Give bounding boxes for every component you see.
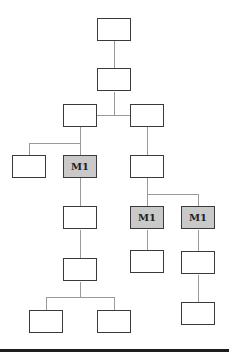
connector-n3-n6	[80, 127, 81, 155]
tree-node	[130, 155, 164, 178]
tree-node	[97, 68, 131, 91]
connector-n1-n2	[114, 41, 115, 68]
connector-n15-up	[46, 297, 47, 310]
tree-node	[181, 302, 215, 325]
bottom-rule	[0, 349, 229, 352]
tree-node	[130, 250, 164, 273]
connector-n7-down	[147, 178, 148, 206]
tree-node	[181, 251, 215, 274]
connector-n10-n12	[198, 230, 199, 251]
tree-node	[12, 155, 46, 178]
connector-n9-n11	[147, 230, 148, 250]
tree-node	[97, 18, 131, 41]
tree-node-marked: M1	[63, 155, 97, 178]
connector-n6-n8	[80, 178, 81, 206]
tree-node	[63, 206, 97, 229]
connector-n2-junction	[114, 92, 115, 115]
connector-n16-up	[114, 297, 115, 310]
connector-n4-n7	[147, 127, 148, 155]
connector-n13-down	[80, 282, 81, 297]
connector-n12-n14	[198, 275, 199, 302]
tree-node	[29, 310, 63, 333]
connector-n5-up	[29, 143, 30, 155]
connector-n7-branch	[147, 194, 198, 195]
tree-node	[130, 104, 164, 127]
tree-node	[63, 258, 97, 281]
tree-node	[63, 104, 97, 127]
connector-n8-n13	[80, 230, 81, 258]
connector-n3-branch	[29, 143, 80, 144]
tree-node-marked: M1	[181, 206, 215, 229]
tree-node-marked: M1	[130, 206, 164, 229]
connector-n3-n4	[97, 115, 130, 116]
connector-n10-up	[198, 194, 199, 206]
tree-node	[97, 310, 131, 333]
tree-diagram: M1 M1 M1	[0, 0, 229, 355]
connector-n13-branch	[46, 297, 114, 298]
